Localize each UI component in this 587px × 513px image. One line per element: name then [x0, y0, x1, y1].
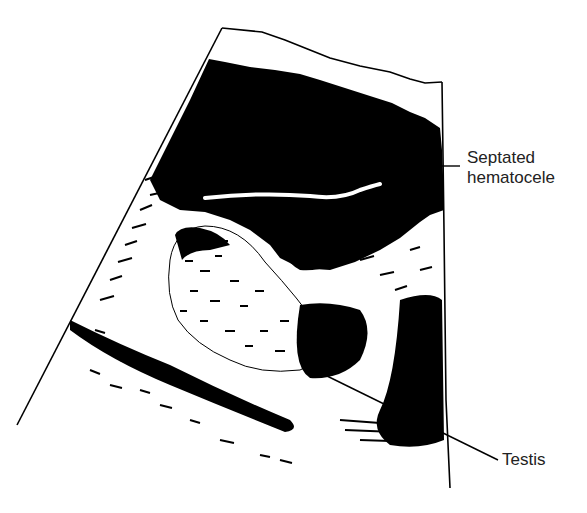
testis-label: Testis	[502, 450, 545, 470]
hematocele-label-line1: Septated	[467, 148, 555, 168]
hematocele-label: Septated hematocele	[467, 148, 555, 188]
ultrasound-diagram	[0, 0, 587, 513]
hematocele-label-line2: hematocele	[467, 168, 555, 188]
